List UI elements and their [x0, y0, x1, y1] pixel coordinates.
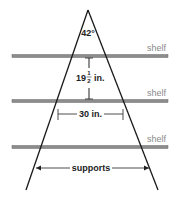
spacing-whole: 19: [76, 73, 86, 83]
shelf-1: [12, 55, 168, 58]
shelf-label-2: shelf: [147, 88, 167, 98]
width-dimension: 30 in.: [58, 109, 123, 120]
shelf-2: [12, 100, 168, 103]
shelf-3: [12, 146, 168, 149]
supports-label: supports: [72, 163, 111, 173]
shelf-label-3: shelf: [147, 134, 167, 144]
supports-callout: supports: [36, 163, 149, 173]
spacing-unit: in.: [94, 73, 105, 83]
spacing-denominator: 2: [87, 78, 91, 84]
shelf-spacing-dimension: 19 1 2 in.: [76, 58, 105, 99]
shelf-label-1: shelf: [147, 43, 167, 53]
apex-angle-label: 42°: [81, 28, 95, 38]
shelf-diagram: 42° shelf shelf shelf 19 1 2 in. 30 in.: [0, 0, 177, 200]
width-label: 30 in.: [79, 109, 102, 119]
diagram-canvas: 42° shelf shelf shelf 19 1 2 in. 30 in.: [0, 0, 177, 200]
spacing-numerator: 1: [87, 70, 91, 76]
